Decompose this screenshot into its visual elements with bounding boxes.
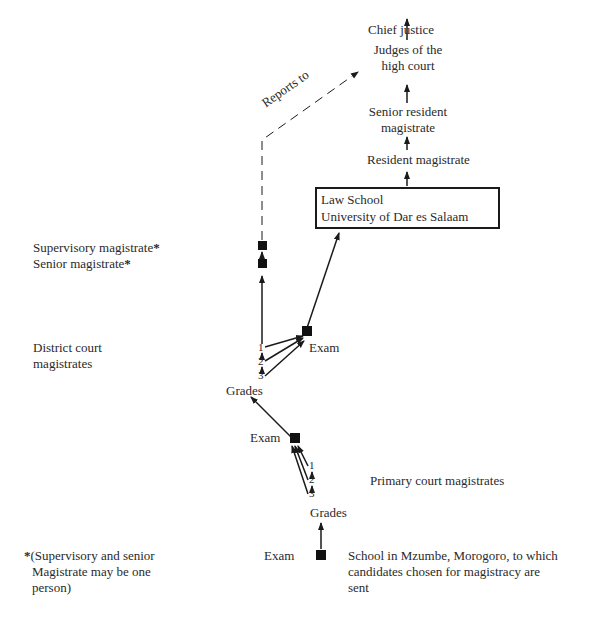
label-resident-magistrate: Resident magistrate [367, 152, 470, 168]
senior-resident-line1: Senior resident [357, 104, 459, 120]
school-line2: candidates chosen for magistracy are [348, 564, 558, 580]
footnote: *(Supervisory and senior Magistrate may … [24, 548, 155, 596]
label-school-exam: Exam [264, 548, 294, 564]
district-line2: magistrates [33, 356, 102, 372]
label-district-grades: Grades [226, 383, 263, 399]
senior-resident-line2: magistrate [357, 120, 459, 136]
senior-node [258, 259, 267, 268]
asterisk-icon: * [153, 240, 160, 255]
label-chief-justice: Chief justice [368, 22, 434, 38]
judges-line1: Judges of the [358, 42, 458, 58]
label-district-exam: Exam [309, 340, 339, 356]
district-grade-2: 2 [258, 355, 264, 368]
label-district-court-magistrates: District court magistrates [33, 340, 102, 372]
label-primary-exam: Exam [250, 430, 280, 446]
supervisory-text: Supervisory magistrate [33, 240, 153, 255]
label-primary-grades: Grades [310, 505, 347, 521]
label-supervisory-magistrate: Supervisory magistrate* [33, 240, 160, 256]
diagram-connectors [0, 0, 615, 625]
primary-exam-node [290, 433, 300, 443]
law-school-line1: Law School [321, 191, 494, 208]
label-school: School in Mzumbe, Morogoro, to which can… [348, 548, 558, 596]
footnote-line3: person) [24, 580, 155, 596]
asterisk-icon: * [124, 256, 131, 271]
school-line3: sent [348, 580, 558, 596]
primary-grade-2: 2 [309, 473, 315, 486]
supervisory-node [258, 241, 267, 250]
label-senior-resident-magistrate: Senior resident magistrate [357, 104, 459, 136]
judges-line2: high court [358, 58, 458, 74]
school-line1: School in Mzumbe, Morogoro, to which [348, 548, 558, 564]
label-senior-magistrate: Senior magistrate* [33, 256, 131, 272]
school-node [316, 550, 326, 560]
law-school-line2: University of Dar es Salaam [321, 208, 494, 225]
primary-grade-3: 3 [309, 487, 315, 500]
district-grade-3: 3 [258, 369, 264, 382]
senior-text: Senior magistrate [33, 256, 124, 271]
footnote-line1: (Supervisory and senior [31, 548, 155, 563]
label-primary-court-magistrates: Primary court magistrates [370, 473, 504, 489]
primary-grade-1: 1 [309, 459, 315, 472]
label-judges-high-court: Judges of the high court [358, 42, 458, 74]
district-line1: District court [33, 340, 102, 356]
district-exam-node [302, 326, 312, 336]
law-school-box: Law School University of Dar es Salaam [315, 187, 500, 229]
footnote-line2: Magistrate may be one [24, 564, 155, 580]
district-grade-1: 1 [258, 341, 264, 354]
